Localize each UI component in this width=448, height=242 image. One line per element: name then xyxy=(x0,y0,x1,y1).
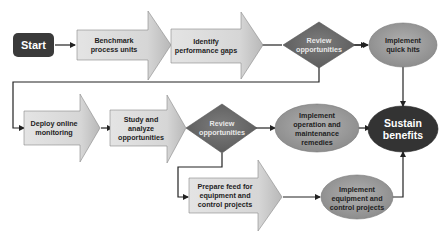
omremedies-label: Implement operation and maintenance reme… xyxy=(283,110,351,148)
sustain-label: Sustain benefits xyxy=(375,113,431,145)
deploy-label: Deploy online monitoring xyxy=(28,111,80,145)
identify-label: Identify performance gaps xyxy=(174,29,238,63)
prepare-label: Prepare feed for equipment and control p… xyxy=(189,178,261,213)
review1-label: Review opportunities xyxy=(288,32,350,58)
study-label: Study and analyze opportunities xyxy=(110,110,172,146)
benchmark-label: Benchmark process units xyxy=(82,30,146,60)
review2-label: Review opportunities xyxy=(192,115,252,141)
quickhits-label: Implement quick hits xyxy=(375,28,431,62)
edge-equipprojects-sustain xyxy=(392,152,403,197)
equipprojects-label: Implement equipment and control projects xyxy=(327,180,387,216)
start-label: Start xyxy=(13,33,54,57)
